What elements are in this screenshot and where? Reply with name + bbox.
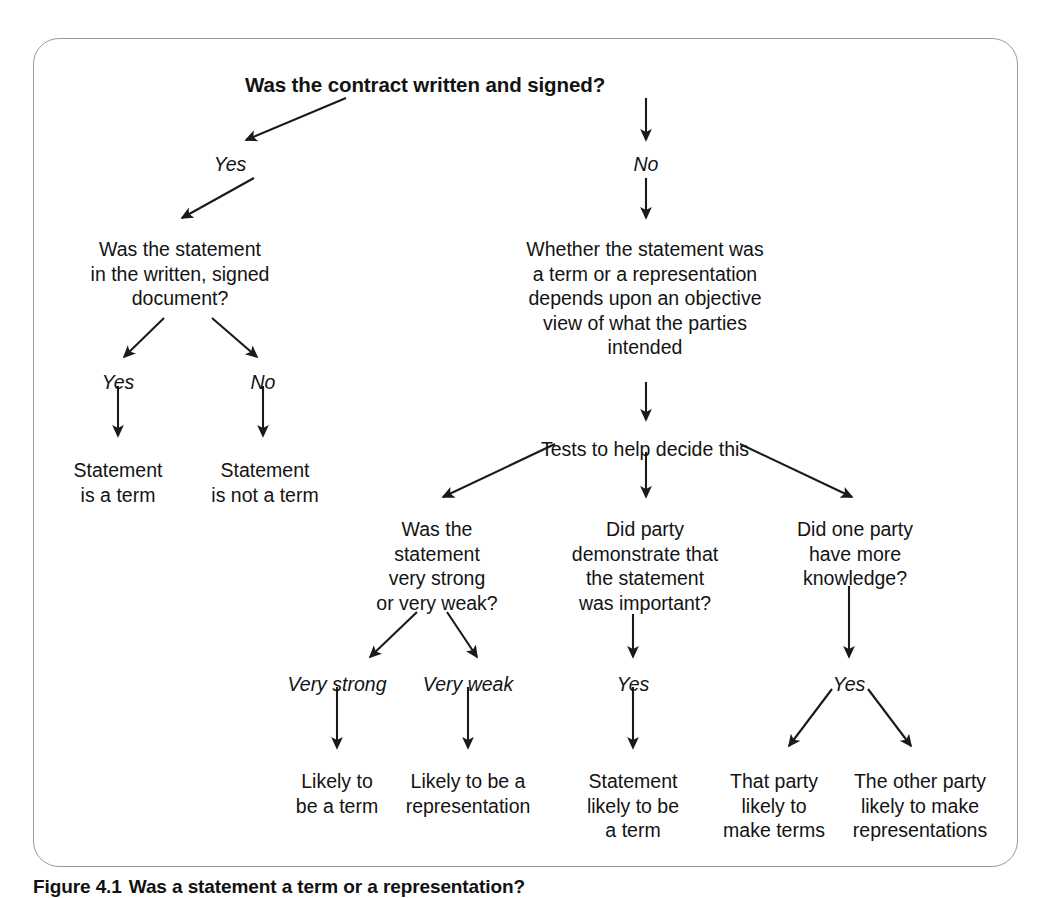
flow-edge-label-lbl_no_left: No xyxy=(251,371,276,394)
flow-node-root: Was the contract written and signed? xyxy=(245,72,605,98)
flow-node-out_other_party: The other party likely to make represent… xyxy=(853,769,987,843)
flow-edge-label-lbl_yes_mid: Yes xyxy=(617,673,650,696)
flow-node-right_q: Whether the statement was a term or a re… xyxy=(526,237,763,360)
flow-node-left_no_out: Statement is not a term xyxy=(211,458,318,507)
flow-node-out_stmt_term: Statement likely to be a term xyxy=(587,769,679,843)
flow-node-out_that_party: That party likely to make terms xyxy=(723,769,825,843)
flow-node-test_importance: Did party demonstrate that the statement… xyxy=(572,517,718,615)
flow-node-tests: Tests to help decide this xyxy=(541,437,749,462)
flow-node-out_term: Likely to be a term xyxy=(296,769,378,818)
flow-node-test_strength: Was the statement very strong or very we… xyxy=(376,517,497,615)
flow-edge-label-lbl_very_weak: Very weak xyxy=(423,673,513,696)
figure-caption-text: Was a statement a term or a representati… xyxy=(129,876,525,897)
flow-node-test_knowledge: Did one party have more knowledge? xyxy=(797,517,913,591)
figure-caption: Figure 4.1Was a statement a term or a re… xyxy=(33,876,525,898)
flow-edge-label-lbl_yes_right: Yes xyxy=(833,673,866,696)
flow-edge-label-lbl_yes_top: Yes xyxy=(214,153,247,176)
flow-node-out_rep: Likely to be a representation xyxy=(406,769,531,818)
flow-edge-label-lbl_very_strong: Very strong xyxy=(288,673,387,696)
flow-edge-label-lbl_yes_left: Yes xyxy=(102,371,135,394)
figure-border xyxy=(33,38,1018,867)
figure-caption-label: Figure 4.1 xyxy=(33,876,122,897)
flow-node-left_q: Was the statement in the written, signed… xyxy=(91,237,270,311)
flow-edge-label-lbl_no_top: No xyxy=(634,153,659,176)
flow-node-left_yes_out: Statement is a term xyxy=(74,458,163,507)
